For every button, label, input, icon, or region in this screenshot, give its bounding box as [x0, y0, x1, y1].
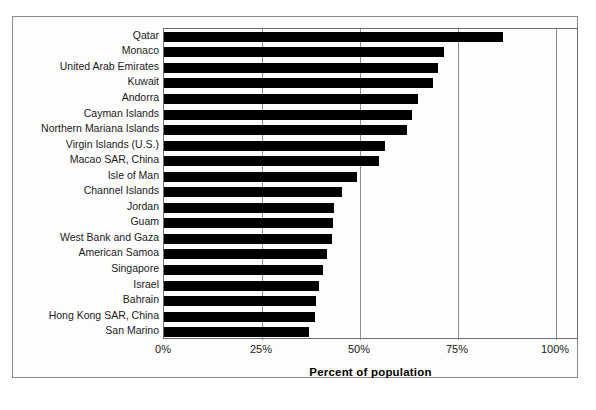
category-label: Virgin Islands (U.S.)	[14, 139, 159, 150]
category-label: Guam	[14, 216, 159, 227]
bar-row	[164, 122, 577, 138]
bar-row	[164, 169, 577, 185]
bar	[164, 94, 418, 104]
bar-row	[164, 45, 577, 61]
x-axis-title: Percent of population	[163, 366, 578, 378]
bar-row	[164, 91, 577, 107]
category-label: Kuwait	[14, 76, 159, 87]
bar-row	[164, 324, 577, 340]
category-label: Israel	[14, 279, 159, 290]
bar-row	[164, 231, 577, 247]
bar	[164, 203, 334, 213]
category-label: Hong Kong SAR, China	[14, 310, 159, 321]
bar-row	[164, 29, 577, 45]
plot-area	[163, 28, 578, 339]
x-tick-label: 0%	[155, 343, 171, 355]
bar	[164, 156, 379, 166]
bar-row	[164, 107, 577, 123]
bar-row	[164, 60, 577, 76]
bar	[164, 32, 503, 42]
bar	[164, 296, 316, 306]
bar-row	[164, 293, 577, 309]
category-label: Singapore	[14, 263, 159, 274]
category-label: West Bank and Gaza	[14, 232, 159, 243]
bar	[164, 249, 327, 259]
bar-row	[164, 216, 577, 232]
x-tick-label: 75%	[446, 343, 468, 355]
chart-figure: QatarMonacoUnited Arab EmiratesKuwaitAnd…	[0, 0, 596, 410]
bar-row	[164, 262, 577, 278]
x-tick-label: 25%	[250, 343, 272, 355]
bar-row	[164, 309, 577, 325]
bar	[164, 110, 412, 120]
bar	[164, 281, 319, 291]
category-label: Monaco	[14, 45, 159, 56]
bar	[164, 47, 444, 57]
bar	[164, 327, 309, 337]
category-label: Qatar	[14, 30, 159, 41]
bar	[164, 172, 357, 182]
bar-row	[164, 185, 577, 201]
category-label: Macao SAR, China	[14, 154, 159, 165]
category-axis-labels: QatarMonacoUnited Arab EmiratesKuwaitAnd…	[14, 28, 159, 339]
category-label: Bahrain	[14, 294, 159, 305]
x-tick-label: 100%	[541, 343, 569, 355]
category-label: Cayman Islands	[14, 108, 159, 119]
category-label: American Samoa	[14, 247, 159, 258]
category-label: Northern Mariana Islands	[14, 123, 159, 134]
bar	[164, 234, 332, 244]
bar-row	[164, 138, 577, 154]
bar	[164, 141, 385, 151]
category-label: Jordan	[14, 201, 159, 212]
category-label: Andorra	[14, 92, 159, 103]
bar	[164, 312, 315, 322]
bar-row	[164, 278, 577, 294]
x-tick-label: 50%	[348, 343, 370, 355]
bar	[164, 63, 438, 73]
bar-row	[164, 247, 577, 263]
category-label: Channel Islands	[14, 185, 159, 196]
bar	[164, 125, 407, 135]
bar-row	[164, 153, 577, 169]
value-axis-ticks: 0%25%50%75%100%	[163, 343, 578, 359]
bar	[164, 218, 333, 228]
bar-row	[164, 76, 577, 92]
category-label: Isle of Man	[14, 170, 159, 181]
category-label: United Arab Emirates	[14, 61, 159, 72]
bar	[164, 265, 323, 275]
category-label: San Marino	[14, 325, 159, 336]
bar	[164, 78, 433, 88]
bar	[164, 187, 342, 197]
bar-row	[164, 200, 577, 216]
